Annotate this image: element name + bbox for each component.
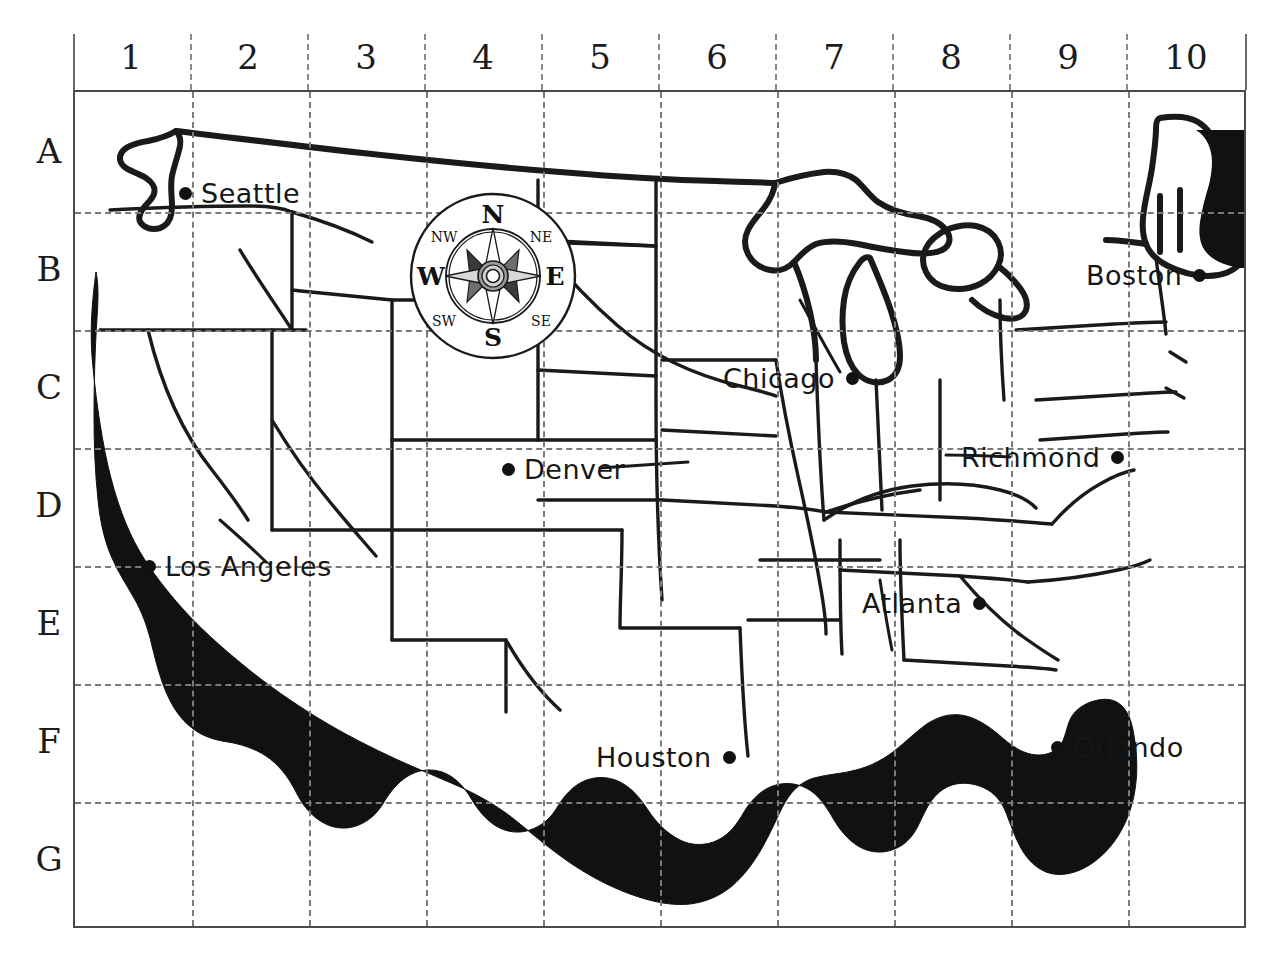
- compass-label-se: SE: [531, 313, 551, 329]
- compass-rose: N E S W NW NE SW SE: [409, 192, 577, 360]
- column-label-7: 7: [804, 36, 864, 78]
- row-label-d: D: [24, 484, 74, 526]
- column-label-3: 3: [336, 36, 396, 78]
- compass-label-s: S: [484, 323, 502, 352]
- header-right-rule: [1245, 34, 1247, 90]
- column-label-2: 2: [218, 36, 278, 78]
- city-marker-boston[interactable]: Boston: [1086, 262, 1206, 289]
- grid-col-line-5: [660, 92, 662, 926]
- grid-row-line-a: [75, 212, 1244, 214]
- compass-label-e: E: [545, 262, 564, 291]
- row-label-c: C: [24, 366, 74, 408]
- city-label-chicago: Chicago: [723, 365, 835, 392]
- header-tick-3: [424, 34, 426, 90]
- compass-label-w: W: [416, 262, 446, 291]
- city-marker-chicago[interactable]: Chicago: [723, 365, 859, 392]
- compass-rose-icon: N E S W NW NE SW SE: [409, 192, 577, 360]
- map-page: 1 2 3 4 5 6 7 8 9 10 A B C D E F G: [0, 0, 1274, 961]
- header-tick-9: [1126, 34, 1128, 90]
- city-marker-los-angeles[interactable]: Los Angeles: [143, 553, 332, 580]
- compass-label-n: N: [482, 200, 505, 229]
- column-label-4: 4: [453, 36, 513, 78]
- city-dot-icon: [973, 597, 986, 610]
- header-left-rule: [73, 34, 75, 90]
- grid-col-line-8: [1011, 92, 1013, 926]
- column-label-8: 8: [921, 36, 981, 78]
- grid-row-line-b: [75, 330, 1244, 332]
- city-dot-icon: [502, 463, 515, 476]
- grid-col-line-6: [777, 92, 779, 926]
- city-dot-icon: [179, 187, 192, 200]
- city-dot-icon: [1051, 741, 1064, 754]
- city-label-denver: Denver: [524, 456, 625, 483]
- column-label-10: 10: [1156, 36, 1216, 78]
- map-grid: [73, 90, 1246, 928]
- row-label-g: G: [24, 838, 74, 880]
- grid-col-line-7: [894, 92, 896, 926]
- city-dot-icon: [723, 751, 736, 764]
- header-tick-2: [307, 34, 309, 90]
- city-dot-icon: [1111, 451, 1124, 464]
- compass-label-sw: SW: [432, 313, 457, 329]
- city-dot-icon: [143, 560, 156, 573]
- city-marker-atlanta[interactable]: Atlanta: [862, 590, 986, 617]
- city-label-boston: Boston: [1086, 262, 1182, 289]
- row-label-a: A: [24, 130, 74, 172]
- city-marker-seattle[interactable]: Seattle: [179, 180, 300, 207]
- column-label-1: 1: [101, 36, 161, 78]
- row-label-b: B: [24, 248, 74, 290]
- city-label-houston: Houston: [596, 744, 712, 771]
- city-label-orlando: Orlando: [1073, 734, 1184, 761]
- grid-col-line-9: [1128, 92, 1130, 926]
- city-dot-icon: [1193, 269, 1206, 282]
- compass-label-ne: NE: [530, 229, 552, 245]
- city-marker-richmond[interactable]: Richmond: [961, 444, 1124, 471]
- compass-label-nw: NW: [431, 229, 458, 245]
- grid-row-line-f: [75, 802, 1244, 804]
- city-marker-houston[interactable]: Houston: [596, 744, 736, 771]
- city-label-los-angeles: Los Angeles: [165, 553, 332, 580]
- grid-col-line-2: [309, 92, 311, 926]
- row-label-e: E: [24, 602, 74, 644]
- city-label-atlanta: Atlanta: [862, 590, 962, 617]
- city-marker-denver[interactable]: Denver: [502, 456, 625, 483]
- city-label-seattle: Seattle: [201, 180, 300, 207]
- grid-col-line-1: [192, 92, 194, 926]
- city-label-richmond: Richmond: [961, 444, 1100, 471]
- column-label-9: 9: [1038, 36, 1098, 78]
- header-tick-4: [541, 34, 543, 90]
- header-tick-6: [775, 34, 777, 90]
- city-marker-orlando[interactable]: Orlando: [1051, 734, 1184, 761]
- header-tick-5: [658, 34, 660, 90]
- grid-row-line-e: [75, 684, 1244, 686]
- header-tick-7: [892, 34, 894, 90]
- column-label-5: 5: [570, 36, 630, 78]
- header-tick-8: [1009, 34, 1011, 90]
- city-dot-icon: [846, 372, 859, 385]
- header-tick-1: [190, 34, 192, 90]
- row-label-f: F: [24, 720, 74, 762]
- column-label-6: 6: [687, 36, 747, 78]
